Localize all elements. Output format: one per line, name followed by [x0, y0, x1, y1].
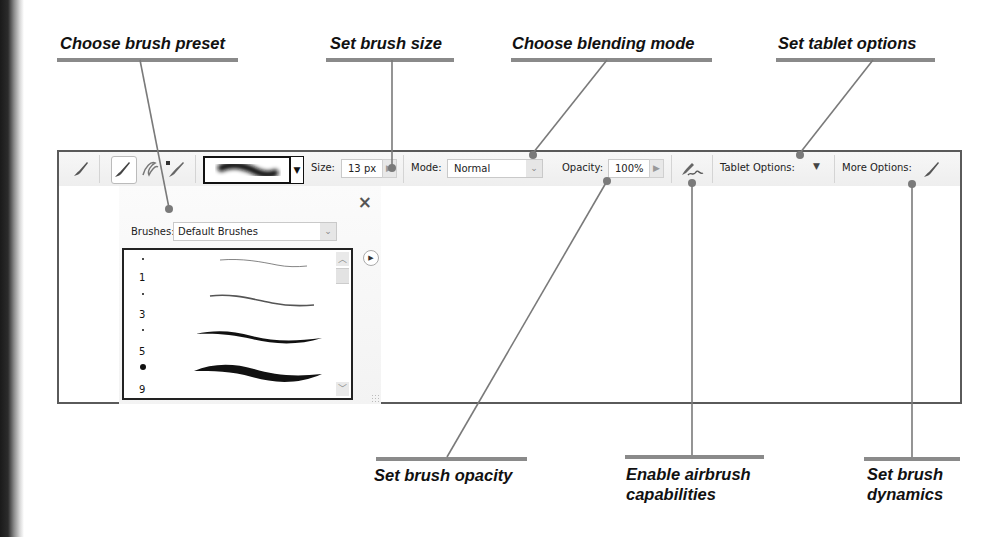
brushes-label: Brushes:	[131, 226, 175, 237]
brush-tip-dot	[142, 258, 144, 260]
tablet-options-label: Tablet Options:	[720, 162, 795, 173]
brush-picker-popup: × Brushes: Default Brushes ⌄ ▶ 1 3	[119, 186, 381, 404]
brush-tool-icon[interactable]	[71, 159, 91, 179]
size-label: Size:	[311, 162, 335, 173]
scroll-down-button[interactable]: ﹀	[336, 382, 349, 396]
chevron-down-icon[interactable]: ⌄	[320, 223, 336, 240]
brush-tip-dot	[142, 293, 144, 295]
brush-tip-dot	[142, 329, 144, 331]
brush-stroke-preview	[205, 158, 289, 182]
callout-underline	[376, 457, 527, 461]
color-replacement-icon[interactable]	[163, 157, 187, 181]
separator	[671, 155, 672, 183]
brush-preset-preview[interactable]	[203, 156, 291, 184]
separator	[195, 155, 196, 183]
callout-airbrush-line1: Enable airbrush	[626, 464, 751, 484]
separator	[99, 155, 100, 183]
brush-options-bar-frame: ▼ Size: 13 px ▶ Mode: Normal ⌄ Opacity: …	[57, 150, 962, 404]
brush-variant-button-selected[interactable]	[111, 156, 137, 184]
brush-icon	[112, 157, 134, 181]
brush-preset-item[interactable]: 9	[124, 363, 334, 400]
picker-menu-button[interactable]: ▶	[363, 250, 379, 266]
opacity-label: Opacity:	[562, 162, 603, 173]
preset-list-scrollbar[interactable]: ︿ ﹀	[336, 252, 349, 396]
mode-value: Normal	[454, 163, 490, 174]
callout-brush-preset: Choose brush preset	[60, 33, 225, 53]
chevron-down-icon[interactable]: ⌄	[526, 160, 542, 177]
page-edge-shadow	[0, 0, 24, 537]
size-slider-button[interactable]: ▶	[382, 159, 397, 178]
impressionist-brush-icon[interactable]	[139, 157, 161, 181]
brush-preset-list[interactable]: 1 3 5 9	[122, 248, 353, 400]
separator	[834, 155, 835, 183]
size-input[interactable]: 13 px	[341, 159, 383, 178]
mode-label: Mode:	[411, 162, 442, 173]
callout-dynamics-line2: dynamics	[867, 484, 943, 504]
brush-preset-item[interactable]: 3	[124, 289, 334, 326]
callout-underline	[326, 58, 454, 62]
brush-tip-dot	[140, 364, 146, 370]
callout-airbrush-line2: capabilities	[626, 484, 716, 504]
opacity-input[interactable]: 100%	[608, 159, 650, 178]
airbrush-icon[interactable]	[680, 159, 706, 181]
callout-underline	[864, 457, 960, 461]
separator	[712, 155, 713, 183]
brush-size-label: 9	[139, 384, 145, 395]
brushes-library-value: Default Brushes	[178, 226, 258, 237]
callout-opacity: Set brush opacity	[374, 465, 512, 485]
separator	[403, 155, 404, 183]
scroll-thumb[interactable]	[336, 268, 349, 284]
resize-grip[interactable]	[371, 394, 379, 402]
brush-stroke-sample	[172, 252, 332, 289]
brush-stroke-sample	[172, 363, 352, 400]
callout-dynamics-line1: Set brush	[867, 464, 943, 484]
callout-tablet-options: Set tablet options	[778, 33, 916, 53]
callout-underline	[57, 58, 238, 62]
scroll-up-button[interactable]: ︿	[336, 252, 349, 266]
brush-size-label: 5	[139, 346, 145, 357]
options-toolbar: ▼ Size: 13 px ▶ Mode: Normal ⌄ Opacity: …	[59, 152, 960, 186]
opacity-slider-button[interactable]: ▶	[649, 159, 664, 178]
brush-preset-item[interactable]: 1	[124, 252, 334, 289]
callout-blending-mode: Choose blending mode	[512, 33, 694, 53]
tablet-options-dropdown-icon[interactable]: ▼	[813, 161, 820, 171]
brush-size-label: 1	[139, 272, 145, 283]
callout-underline	[776, 58, 935, 62]
brushes-library-select[interactable]: Default Brushes ⌄	[173, 222, 337, 241]
callout-brush-size: Set brush size	[330, 33, 442, 53]
brush-stroke-sample	[172, 326, 352, 363]
callout-underline	[625, 455, 764, 459]
brush-stroke-sample	[172, 289, 342, 326]
brush-preset-item[interactable]: 5	[124, 326, 334, 363]
callout-underline	[511, 58, 712, 62]
brush-size-label: 3	[139, 309, 145, 320]
close-icon[interactable]: ×	[358, 192, 372, 212]
brush-preset-dropdown-button[interactable]: ▼	[291, 156, 304, 184]
brush-dynamics-icon[interactable]	[921, 158, 943, 180]
more-options-label: More Options:	[842, 162, 912, 173]
